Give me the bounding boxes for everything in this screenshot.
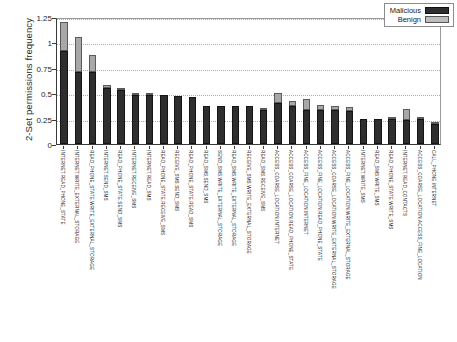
x-tick-mark xyxy=(277,146,278,149)
bar-series-group xyxy=(57,19,440,144)
y-tick-label: 0 xyxy=(14,141,52,150)
x-tick-label: ACCESS_FINE_LOCATION,WRITE_EXTERNAL_STOR… xyxy=(345,150,350,280)
bar-segment-benign xyxy=(60,22,67,50)
bar-column xyxy=(431,17,438,144)
bar-segment-benign xyxy=(75,37,82,72)
x-tick-mark xyxy=(434,146,435,149)
bar-column xyxy=(403,17,410,144)
bar-segment-malicious xyxy=(360,119,367,144)
x-tick-label: READ_PHONE_STATE,SEND_SMS xyxy=(117,150,122,227)
x-tick-label: READ_PHONE_STATE,READ_SMS xyxy=(188,150,193,227)
x-tick-mark xyxy=(405,146,406,149)
x-tick-label: INTERNET,SEND_SMS xyxy=(103,150,108,201)
x-tick-label: READ_SMS,WRITE_EXTERNAL_STORAGE xyxy=(231,150,236,246)
x-tick-label: ACCESS_COARSE_LOCATION,INTERNET xyxy=(274,150,279,244)
x-tick-label: ACCESS_FINE_LOCATION,INTERNET xyxy=(303,150,308,235)
x-tick-label: CALL_PHONE,INTERNET xyxy=(431,150,436,207)
x-tick-label: INTERNET,WRITE_SMS xyxy=(360,150,365,203)
bar-segment-malicious xyxy=(317,110,324,144)
bar-column xyxy=(60,17,67,144)
y-tick-label: 0.5 xyxy=(14,90,52,99)
bar-column xyxy=(274,17,281,144)
legend-label-malicious: Malicious xyxy=(390,6,421,15)
bar-column xyxy=(217,17,224,144)
bar-segment-malicious xyxy=(89,72,96,144)
bar-segment-malicious xyxy=(274,103,281,144)
x-tick-mark xyxy=(391,146,392,149)
bar-segment-malicious xyxy=(189,97,196,144)
bar-segment-malicious xyxy=(431,124,438,144)
x-tick-mark xyxy=(291,146,292,149)
x-tick-mark xyxy=(320,146,321,149)
bar-segment-malicious xyxy=(346,111,353,144)
bar-column xyxy=(117,17,124,144)
bar-column xyxy=(160,17,167,144)
bar-segment-malicious xyxy=(160,95,167,144)
x-tick-mark xyxy=(363,146,364,149)
bar-column xyxy=(260,17,267,144)
x-tick-label: RECEIVE_SMS,WRITE_EXTERNAL_STORAGE xyxy=(246,150,251,254)
bar-segment-malicious xyxy=(331,110,338,144)
bar-column xyxy=(89,17,96,144)
y-tick-label: 1.25 xyxy=(14,14,52,23)
bar-segment-malicious xyxy=(174,96,181,144)
plot-area xyxy=(56,18,441,145)
bar-column xyxy=(289,17,296,144)
x-tick-mark xyxy=(377,146,378,149)
y-tick-label: 0.25 xyxy=(14,115,52,124)
bar-segment-malicious xyxy=(132,95,139,144)
x-tick-mark xyxy=(177,146,178,149)
bar-segment-malicious xyxy=(217,106,224,144)
bar-segment-malicious xyxy=(289,106,296,144)
bar-column xyxy=(388,17,395,144)
x-tick-mark xyxy=(249,146,250,149)
bar-column xyxy=(174,17,181,144)
bar-column xyxy=(132,17,139,144)
x-tick-mark xyxy=(263,146,264,149)
legend-label-benign: Benign xyxy=(398,15,421,24)
x-axis-tick-labels: INTERNET,READ_PHONE_STATEINTERNET,WRITE_… xyxy=(56,146,441,336)
x-tick-label: RECEIVE_SMS,SEND_SMS xyxy=(174,150,179,211)
bar-segment-malicious xyxy=(246,106,253,144)
bar-segment-malicious xyxy=(75,72,82,144)
bar-column xyxy=(303,17,310,144)
x-tick-mark xyxy=(163,146,164,149)
bar-column xyxy=(189,17,196,144)
bar-segment-malicious xyxy=(60,51,67,144)
x-tick-label: INTERNET,RECEIVE_SMS xyxy=(131,150,136,208)
bar-column xyxy=(103,17,110,144)
x-tick-label: ACCESS_FINE_LOCATION,READ_PHONE_STATE xyxy=(317,150,322,261)
bar-segment-malicious xyxy=(260,110,267,144)
x-tick-mark xyxy=(149,146,150,149)
x-tick-mark xyxy=(306,146,307,149)
chart-legend: Malicious Benign xyxy=(384,3,454,27)
x-tick-label: ACCESS_COARSE_LOCATION,ACCESS_FINE_LOCAT… xyxy=(417,150,422,280)
x-tick-label: ACCESS_COARSE_LOCATION,WRITE_EXTERNAL_ST… xyxy=(331,150,336,289)
x-tick-label: INTERNET,READ_PHONE_STATE xyxy=(60,150,65,225)
bar-segment-benign xyxy=(274,93,281,104)
bar-segment-malicious xyxy=(303,110,310,144)
x-tick-mark xyxy=(106,146,107,149)
legend-item-malicious: Malicious xyxy=(390,6,449,15)
bar-segment-benign xyxy=(89,55,96,73)
chart-container: 2-Set permissions frequency 00.250.50.75… xyxy=(0,0,457,342)
x-tick-label: READ_PHONE_STATE,WRITE_SMS xyxy=(388,150,393,230)
x-tick-mark xyxy=(348,146,349,149)
x-tick-mark xyxy=(191,146,192,149)
x-tick-label: INTERNET,READ_CONTACTS xyxy=(402,150,407,216)
legend-swatch-malicious xyxy=(425,7,449,14)
bar-segment-malicious xyxy=(146,95,153,144)
x-tick-label: READ_PHONE_STATE,WRITE_EXTERNAL_STORAGE xyxy=(89,150,94,270)
bar-segment-benign xyxy=(303,99,310,111)
x-tick-mark xyxy=(220,146,221,149)
bar-column xyxy=(360,17,367,144)
x-tick-mark xyxy=(334,146,335,149)
bar-segment-malicious xyxy=(403,120,410,144)
bar-segment-malicious xyxy=(374,119,381,144)
bar-segment-malicious xyxy=(117,90,124,144)
bar-segment-malicious xyxy=(388,119,395,144)
x-tick-label: READ_SMS,SEND_SMS xyxy=(203,150,208,204)
x-tick-mark xyxy=(134,146,135,149)
bar-column xyxy=(232,17,239,144)
y-tick-label: 1 xyxy=(14,39,52,48)
